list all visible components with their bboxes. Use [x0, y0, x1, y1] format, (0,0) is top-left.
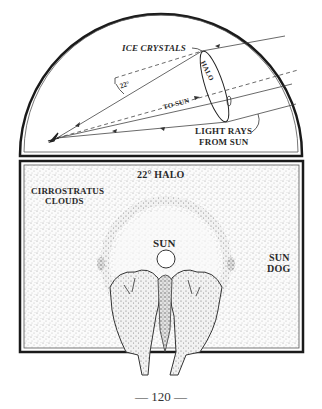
halo-title-label: 22° HALO	[137, 170, 185, 180]
right-sun-dog	[227, 257, 235, 271]
clouds-label-line2: CLOUDS	[45, 197, 84, 206]
sun-icon	[157, 250, 175, 268]
sun-dog-label-line1: SUN	[269, 253, 290, 263]
sun-dog-label-line2: DOG	[267, 264, 290, 274]
light-rays-label-line1: LIGHT RAYS	[195, 127, 252, 136]
sun-label: SUN	[153, 238, 176, 249]
page-number: — 120 —	[0, 389, 322, 405]
ice-crystals-label: ICE CRYSTALS	[122, 44, 186, 53]
halo-geometry-diagram	[20, 14, 302, 156]
left-sun-dog	[97, 257, 105, 271]
clouds-label-line1: CIRROSTRATUS	[31, 187, 104, 196]
fists-illustration	[110, 270, 222, 375]
light-rays-label-line2: FROM SUN	[199, 138, 248, 147]
